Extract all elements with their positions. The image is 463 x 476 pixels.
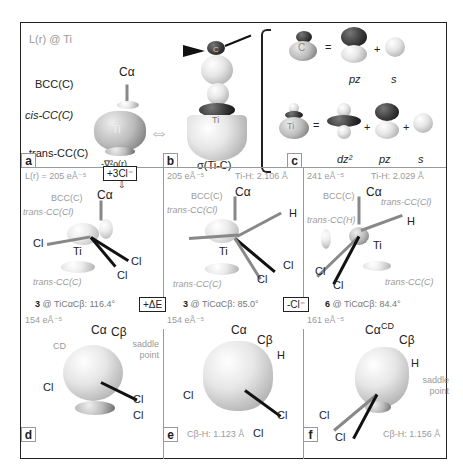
c-cl2: Cl — [333, 279, 343, 291]
f-cl1: Cl — [319, 409, 329, 421]
c-trans-h-lobe — [321, 229, 331, 249]
a-cl3: Cl — [117, 269, 127, 281]
pz2-light — [375, 121, 399, 139]
b-cl1: Cl — [283, 259, 293, 271]
c-footer: 6 @ TiCαCβ: 84.4° — [325, 299, 401, 309]
e-calpha: Cα — [231, 323, 247, 337]
plus-sign-3: + — [403, 121, 409, 133]
panel-c-header-left: 241 eÅ⁻⁵ — [307, 171, 344, 181]
divider-bc — [303, 167, 304, 309]
d-cl2: Cl — [133, 393, 143, 405]
trans-lobe — [105, 147, 135, 156]
f-calpha: Cα — [365, 323, 381, 337]
b-bcc: BCC(C) — [191, 191, 223, 201]
a-bcc: BCC(C) — [51, 193, 83, 203]
c-light-lobe — [201, 55, 233, 85]
panel-label-d: d — [21, 427, 36, 442]
panel-e-header: 154 eÅ⁻⁵ — [167, 315, 204, 325]
c-h-bond — [360, 214, 402, 232]
dz2-label: dz² — [337, 153, 352, 165]
calpha-label: Cα — [119, 65, 135, 79]
c-h: H — [407, 215, 415, 227]
bond-line — [225, 35, 252, 47]
c-trans-c: trans-CC(C) — [385, 277, 434, 287]
panel-b-header-right: Ti-H: 2.106 Å — [235, 171, 288, 181]
a-ti: Ti — [73, 245, 82, 257]
b-h-bond — [236, 212, 282, 238]
c-calpha: Cα — [366, 185, 382, 199]
trans-label: trans-CC(C) — [29, 147, 88, 159]
c-bcc: BCC(C) — [323, 191, 355, 201]
ti-sigma-label: Ti — [212, 115, 219, 125]
a-footer: 3 @ TiCαCβ: 116.4° — [35, 299, 115, 309]
panel-a-header: L(r) = 205 eÅ⁻⁵ — [25, 171, 87, 181]
equivalence-arrow-icon: ⇔ — [149, 121, 169, 144]
panel-label-e: e — [163, 427, 178, 442]
a-trans-c: trans-CC(C) — [33, 277, 82, 287]
equals-sign-2: = — [313, 119, 319, 131]
d-calpha: Cα — [91, 323, 107, 337]
d-cbeta: Cβ — [111, 325, 127, 339]
f-cd: CD — [381, 321, 394, 331]
d-isosurface — [63, 345, 123, 401]
b-trans-c: trans-CC(C) — [173, 279, 222, 289]
panel-d-header: 154 eÅ⁻⁵ — [25, 315, 62, 325]
c-trans-c-lobe — [363, 261, 391, 271]
a-cl2: Cl — [131, 255, 141, 267]
d-cl1: Cl — [43, 381, 53, 393]
f-h: H — [411, 357, 419, 369]
c-trans-cl: trans-CC(Cl) — [381, 197, 432, 207]
panel-label-c: c — [287, 153, 302, 168]
wedge-bond-icon — [183, 45, 205, 57]
divider-ab — [163, 167, 164, 309]
panel-c-header-right: Ti-H: 2.029 Å — [371, 171, 424, 181]
b-calpha: Cα — [235, 185, 251, 199]
d-lower-lobe — [75, 401, 115, 415]
e-cbeta: Cβ — [257, 333, 273, 347]
e-footer: Cβ-H: 1.123 Å — [187, 429, 244, 439]
panel-label-f: f — [303, 427, 318, 442]
b-footer: 3 @ TiCαCβ: 85.0° — [183, 299, 259, 309]
c-calpha-bond — [358, 197, 361, 225]
a-lobe2 — [99, 219, 113, 239]
down-arrow-icon: ⇩ — [118, 180, 126, 190]
plus-sign-2: + — [364, 121, 370, 133]
c-trans-h: trans-CC(H) — [307, 215, 356, 225]
b-cl2: Cl — [257, 273, 267, 285]
ti-atom-label: Ti — [287, 121, 294, 131]
e-h: H — [277, 349, 285, 361]
panel-label-a: a — [21, 153, 36, 168]
b-trans-c-lobe — [205, 263, 239, 275]
s-label: s — [391, 73, 397, 85]
pz-dark — [341, 27, 367, 47]
b-h: H — [289, 207, 297, 219]
f-isosurface — [355, 347, 409, 407]
c-cl1: Cl — [315, 265, 325, 277]
e-cl1: Cl — [183, 389, 193, 401]
f-cl1-bond — [333, 393, 378, 431]
c-footer-text: @ TiCαCβ: 84.4° — [330, 299, 401, 309]
b-footer-text: @ TiCαCβ: 85.0° — [188, 299, 259, 309]
c-atom-label: C — [298, 42, 305, 53]
a-trans-cl: trans-CC(Cl) — [23, 207, 74, 217]
bond-lobe — [207, 83, 229, 105]
e-cl2: Cl — [277, 409, 287, 421]
sigma-label: σ(Ti-C) — [197, 159, 231, 171]
pz-label: pz — [349, 73, 361, 85]
pz2-dark — [375, 103, 399, 121]
e-cl3: Cl — [253, 427, 263, 439]
panel-f-header: 161 eÅ⁻⁵ — [307, 315, 344, 325]
f-saddle: saddle point — [417, 375, 449, 397]
a-cl1: Cl — [33, 237, 43, 249]
b-calpha-bond — [234, 197, 237, 221]
bcc-lobe — [117, 101, 139, 109]
panel-label-b: b — [163, 153, 178, 168]
d-saddle: saddle point — [127, 339, 159, 361]
f-cbeta: Cβ — [399, 333, 415, 347]
add-3cl-step: +3Cl⁻ — [103, 166, 137, 181]
cis-label: cis-CC(C) — [25, 109, 73, 121]
top-row-divider — [21, 167, 446, 168]
f-footer: Cβ-H: 1.156 Å — [383, 429, 440, 439]
remove-cl-step: -Cl⁻ — [283, 297, 309, 312]
equals-sign: = — [325, 41, 331, 53]
